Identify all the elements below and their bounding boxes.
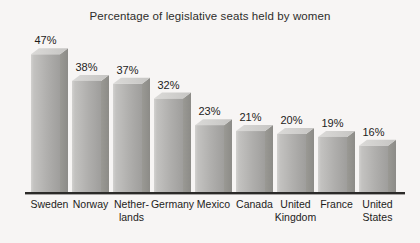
bar-side-face-netherlands bbox=[142, 78, 150, 193]
bar-front-face-netherlands bbox=[113, 84, 142, 193]
bar-front-face-canada bbox=[236, 131, 265, 193]
x-axis-label-netherlands: Nether- bbox=[114, 198, 150, 210]
bar-side-face-mexico bbox=[224, 119, 232, 193]
bar-front-face-united-states bbox=[359, 146, 388, 193]
x-axis-label-canada: Canada bbox=[236, 198, 273, 210]
bar-value-label-canada: 21% bbox=[239, 111, 261, 123]
bar-front-face-mexico bbox=[195, 125, 224, 193]
bar-side-face-sweden bbox=[60, 48, 68, 193]
bar-front-face-norway bbox=[72, 81, 101, 193]
x-axis-label-mexico: Mexico bbox=[197, 198, 230, 210]
bar-chart: Percentage of legislative seats held by … bbox=[0, 0, 420, 243]
bar-group-canada: 21%Canada bbox=[236, 111, 273, 210]
x-axis-label-united-kingdom-line2: Kingdom bbox=[275, 211, 317, 223]
bar-side-face-united-states bbox=[388, 140, 396, 193]
bar-group-united-kingdom: 20%UnitedKingdom bbox=[275, 114, 317, 223]
bar-value-label-germany: 32% bbox=[157, 79, 179, 91]
x-axis-label-norway: Norway bbox=[73, 198, 109, 210]
bar-group-germany: 32%Germany bbox=[151, 79, 195, 210]
bar-side-face-canada bbox=[265, 125, 273, 193]
bar-group-france: 19%France bbox=[318, 117, 355, 210]
bar-value-label-norway: 38% bbox=[75, 61, 97, 73]
bar-front-face-france bbox=[318, 137, 347, 193]
bar-chart-plot-area: 47%Sweden38%Norway37%Nether-lands32%Germ… bbox=[0, 0, 420, 243]
bar-value-label-united-kingdom: 20% bbox=[280, 114, 302, 126]
bar-side-face-norway bbox=[101, 75, 109, 193]
x-axis-label-sweden: Sweden bbox=[31, 198, 69, 210]
bar-group-norway: 38%Norway bbox=[72, 61, 109, 210]
bar-front-face-sweden bbox=[31, 54, 60, 193]
bar-value-label-netherlands: 37% bbox=[116, 64, 138, 76]
x-axis-label-united-states: United bbox=[362, 198, 393, 210]
bar-value-label-united-states: 16% bbox=[362, 126, 384, 138]
bar-value-label-sweden: 47% bbox=[34, 34, 56, 46]
bar-value-label-mexico: 23% bbox=[198, 105, 220, 117]
bar-front-face-germany bbox=[154, 99, 183, 193]
x-axis-label-france: France bbox=[320, 198, 353, 210]
bar-value-label-france: 19% bbox=[321, 117, 343, 129]
x-axis-label-germany: Germany bbox=[151, 198, 195, 210]
x-axis-label-united-states-line2: States bbox=[363, 211, 393, 223]
bar-group-netherlands: 37%Nether-lands bbox=[113, 64, 150, 223]
x-axis-label-netherlands-line2: lands bbox=[119, 211, 144, 223]
bar-group-united-states: 16%UnitedStates bbox=[359, 126, 396, 223]
bar-side-face-united-kingdom bbox=[306, 128, 314, 193]
bar-front-face-united-kingdom bbox=[277, 134, 306, 193]
x-axis-label-united-kingdom: United bbox=[280, 198, 311, 210]
bar-side-face-france bbox=[347, 131, 355, 193]
x-axis-line bbox=[25, 192, 405, 194]
bar-group-sweden: 47%Sweden bbox=[31, 34, 69, 210]
bar-side-face-germany bbox=[183, 93, 191, 193]
